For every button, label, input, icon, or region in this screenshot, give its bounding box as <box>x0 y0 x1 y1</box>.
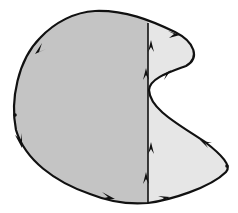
region-shape <box>14 11 228 204</box>
diagram-canvas <box>0 0 238 213</box>
right-vertex-dot <box>225 164 229 168</box>
left-vertex-dot <box>13 113 17 117</box>
